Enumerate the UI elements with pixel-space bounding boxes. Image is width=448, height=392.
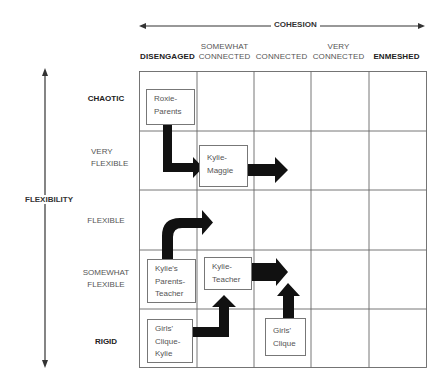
row-header-line: SOMEWHAT [76,267,136,279]
arrow-girls-clique-up [277,283,300,318]
node-text: Teacher [212,274,251,287]
node-kylies-parents-teacher: Kylie's Parents- Teacher [147,259,196,303]
row-header-rigid: RIGID [76,336,136,348]
node-text: Maggie [207,165,247,178]
node-text: Girls' [273,325,305,338]
column-header-connected: CONNECTED [253,52,310,62]
node-roxie-parents: Roxie- Parents [146,89,195,125]
arrow-right-icon [418,23,425,29]
arrow-kylies-parents-curve [162,210,213,259]
row-header-somewhat-flexible: SOMEWHAT FLEXIBLE [76,267,136,291]
column-header-line: VERY [310,42,367,52]
node-text: Roxie- [154,93,194,106]
arrow-left-icon [139,23,146,29]
row-header-line: FLEXIBLE [76,279,136,291]
arrow-up-icon [42,68,48,76]
node-girls-clique-kylie: Girls' Clique- Kylie [147,319,193,363]
column-header-line: CONNECTED [196,52,253,62]
node-text: Kylie- [207,152,247,165]
node-text: Girls' [155,323,192,336]
arrow-down-icon [42,360,48,368]
node-text: Parents [154,106,194,119]
flexibility-axis-title: FLEXIBILITY [22,195,76,204]
node-kylie-teacher: Kylie- Teacher [204,257,252,290]
cohesion-axis-title: COHESION [271,20,320,29]
row-header-line: VERY [76,146,136,158]
node-text: Kylie's [155,263,195,276]
node-text: Parents- [155,276,195,289]
arrow-kylie-teacher-right [252,258,288,286]
column-header-enmeshed: ENMESHED [368,52,425,62]
column-header-line: SOMEWHAT [196,42,253,52]
node-text: Kylie- [212,261,251,274]
column-header-disengaged: DISENGAGED [139,52,196,62]
flexibility-axis [42,68,48,368]
node-text: Clique [273,338,305,351]
column-header-somewhat-connected: SOMEWHAT CONNECTED [196,42,253,62]
column-header-line: CONNECTED [310,52,367,62]
arrow-girls-clique-kylie-up [193,295,236,337]
row-header-flexible: FLEXIBLE [76,215,136,227]
column-header-very-connected: VERY CONNECTED [310,42,367,62]
row-header-chaotic: CHAOTIC [76,93,136,105]
node-text: Kylie [155,348,192,361]
row-header-line: FLEXIBLE [76,158,136,170]
node-text: Clique- [155,336,192,349]
node-kylie-maggie: Kylie- Maggie [199,145,248,187]
node-text: Teacher [155,288,195,301]
node-girls-clique: Girls' Clique [265,318,306,356]
row-header-very-flexible: VERY FLEXIBLE [76,146,136,170]
